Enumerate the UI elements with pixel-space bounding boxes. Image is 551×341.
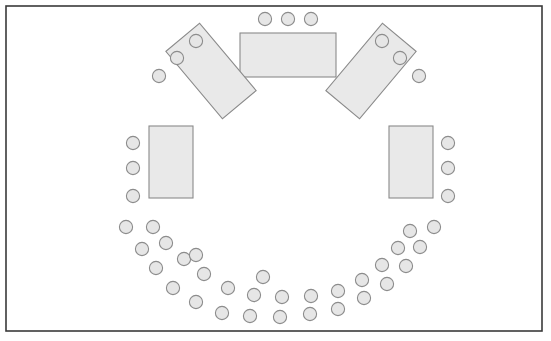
seat-circle[interactable] (152, 69, 165, 82)
seat-circle[interactable] (247, 288, 260, 301)
table-top-center-table[interactable] (240, 33, 336, 77)
seat-circle[interactable] (189, 34, 202, 47)
seat-circle[interactable] (355, 273, 368, 286)
seat-circle[interactable] (126, 161, 139, 174)
seat-circle[interactable] (243, 309, 256, 322)
seat-circle[interactable] (275, 290, 288, 303)
seat-group-right-vertical-seats (441, 136, 454, 202)
seat-circle[interactable] (427, 220, 440, 233)
seat-circle[interactable] (170, 51, 183, 64)
seat-circle[interactable] (166, 281, 179, 294)
seat-circle[interactable] (393, 51, 406, 64)
seat-circle[interactable] (197, 267, 210, 280)
seat-circle[interactable] (258, 12, 271, 25)
seat-circle[interactable] (126, 189, 139, 202)
seat-group-top-row-seats (258, 12, 317, 25)
seat-circle[interactable] (375, 258, 388, 271)
seat-circle[interactable] (304, 289, 317, 302)
seat-circle[interactable] (441, 161, 454, 174)
seat-circle[interactable] (119, 220, 132, 233)
seat-circle[interactable] (215, 306, 228, 319)
seat-circle[interactable] (304, 12, 317, 25)
seat-circle[interactable] (303, 307, 316, 320)
seat-circle[interactable] (177, 252, 190, 265)
seat-circle[interactable] (403, 224, 416, 237)
seat-circle[interactable] (412, 69, 425, 82)
seat-group-left-vertical-seats (126, 136, 139, 202)
seat-circle[interactable] (331, 302, 344, 315)
seat-circle[interactable] (357, 291, 370, 304)
floor-plan-canvas (0, 0, 551, 341)
seat-circle[interactable] (159, 236, 172, 249)
seat-circle[interactable] (149, 261, 162, 274)
seat-circle[interactable] (273, 310, 286, 323)
seat-circle[interactable] (380, 277, 393, 290)
seat-circle[interactable] (189, 295, 202, 308)
seat-circle[interactable] (441, 136, 454, 149)
seat-circle[interactable] (399, 259, 412, 272)
table-left-vertical-table[interactable] (149, 126, 193, 198)
seat-circle[interactable] (441, 189, 454, 202)
seat-circle[interactable] (126, 136, 139, 149)
floor-plan-diagram (0, 0, 551, 341)
seat-circle[interactable] (146, 220, 159, 233)
seat-circle[interactable] (391, 241, 404, 254)
table-right-vertical-table[interactable] (389, 126, 433, 198)
seat-circle[interactable] (375, 34, 388, 47)
seat-circle[interactable] (331, 284, 344, 297)
seat-circle[interactable] (221, 281, 234, 294)
seat-circle[interactable] (189, 248, 202, 261)
seat-circle[interactable] (256, 270, 269, 283)
seat-circle[interactable] (135, 242, 148, 255)
seat-circle[interactable] (281, 12, 294, 25)
seat-circle[interactable] (413, 240, 426, 253)
